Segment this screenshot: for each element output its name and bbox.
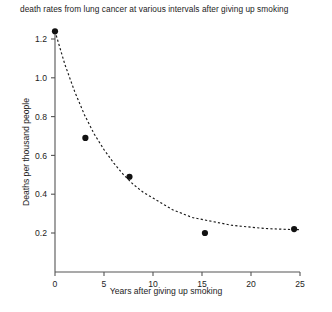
y-tick-label: 1.2 <box>35 34 47 44</box>
y-tick-label: 0.8 <box>35 112 47 122</box>
data-points <box>52 28 297 236</box>
data-point <box>202 230 208 236</box>
y-tick-label: 1.0 <box>35 73 47 83</box>
trend-curve <box>55 31 300 229</box>
y-axis-label: Deaths per thousand people <box>21 52 31 252</box>
y-tick-label: 0.6 <box>35 151 47 161</box>
data-point <box>291 226 297 232</box>
data-point <box>82 135 88 141</box>
y-axis-ticks: 0.20.40.60.81.01.2 <box>35 34 55 238</box>
y-tick-label: 0.2 <box>35 228 47 238</box>
chart-title: death rates from lung cancer at various … <box>20 4 288 14</box>
chart-figure: death rates from lung cancer at various … <box>0 0 332 312</box>
scatter-plot-canvas: 0510152025 0.20.40.60.81.01.2 <box>0 0 332 312</box>
data-group <box>52 28 300 236</box>
x-axis-label: Years after giving up smoking <box>0 286 332 296</box>
y-tick-label: 0.4 <box>35 189 47 199</box>
data-point <box>126 174 132 180</box>
data-point <box>52 28 58 34</box>
axes-group: 0510152025 0.20.40.60.81.01.2 <box>35 30 305 289</box>
